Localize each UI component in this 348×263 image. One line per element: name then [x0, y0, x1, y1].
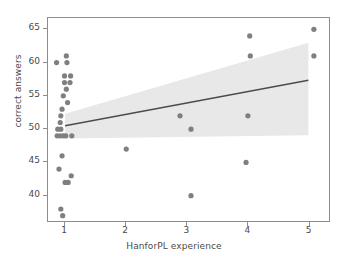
y-tick-label-60: 60 — [0, 57, 46, 66]
data-point — [69, 133, 74, 138]
data-point — [67, 80, 72, 85]
y-tick-label-50: 50 — [0, 123, 46, 132]
y-tick-label-45: 45 — [0, 156, 46, 165]
data-point — [247, 33, 252, 38]
data-point — [188, 193, 193, 198]
data-point — [59, 107, 64, 112]
x-tick-label-1: 1 — [44, 226, 84, 235]
x-tick-label-3: 3 — [166, 226, 206, 235]
data-point — [64, 87, 69, 92]
data-point — [68, 73, 73, 78]
x-tick-label-2: 2 — [105, 226, 145, 235]
data-point — [311, 27, 316, 32]
x-axis-label: HanforPL experience — [0, 241, 348, 251]
data-point — [188, 127, 193, 132]
data-point — [58, 113, 63, 118]
data-point — [64, 53, 69, 58]
data-point — [61, 93, 66, 98]
x-tick-mark-5 — [309, 222, 310, 226]
x-tick-label-4: 4 — [227, 226, 267, 235]
data-point — [124, 147, 129, 152]
y-tick-label-55: 55 — [0, 90, 46, 99]
x-tick-mark-4 — [247, 222, 248, 226]
data-point — [59, 153, 64, 158]
data-point — [65, 100, 70, 105]
data-point — [177, 113, 182, 118]
data-point — [56, 166, 61, 171]
data-point — [248, 53, 253, 58]
data-point — [60, 213, 65, 218]
x-tick-mark-3 — [186, 222, 187, 226]
data-point — [62, 73, 67, 78]
x-tick-mark-1 — [64, 222, 65, 226]
scatter-plot-figure: correct answers HanforPL experience 4045… — [0, 0, 348, 263]
data-point — [63, 133, 68, 138]
data-point — [58, 206, 63, 211]
data-point — [64, 60, 69, 65]
plot-canvas — [48, 18, 330, 222]
confidence-band — [65, 43, 308, 139]
data-point — [54, 60, 59, 65]
data-point — [58, 120, 63, 125]
x-tick-label-5: 5 — [289, 226, 329, 235]
data-point — [62, 80, 67, 85]
data-point — [69, 173, 74, 178]
data-point — [243, 160, 248, 165]
data-point — [311, 53, 316, 58]
plot-area — [47, 17, 330, 222]
x-tick-mark-2 — [125, 222, 126, 226]
y-tick-label-65: 65 — [0, 23, 46, 32]
data-point — [245, 113, 250, 118]
data-point — [66, 180, 71, 185]
data-point — [58, 127, 63, 132]
y-tick-label-40: 40 — [0, 190, 46, 199]
